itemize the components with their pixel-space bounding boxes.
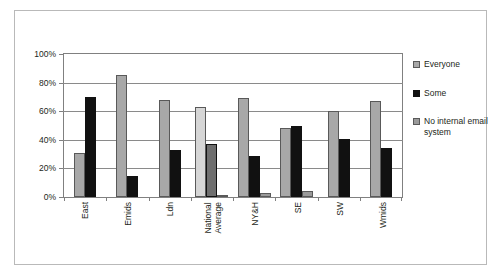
y-axis-tick-label: 40% (39, 135, 56, 145)
y-axis-tick-label: 60% (39, 106, 56, 116)
bar (217, 195, 228, 197)
bar-group (191, 54, 233, 197)
y-axis-tick (59, 140, 63, 141)
y-axis-tick (59, 83, 63, 84)
bar-group (149, 54, 191, 197)
x-axis-label: SE (293, 202, 303, 213)
x-axis-label-cell: East (64, 200, 107, 262)
y-axis-tick (59, 111, 63, 112)
legend-item[interactable]: Some (413, 88, 503, 99)
legend-item[interactable]: Everyone (413, 59, 503, 70)
bar (116, 75, 127, 197)
bar (339, 139, 350, 197)
legend-swatch-icon (413, 118, 420, 125)
x-axis-label: NationalAverage (203, 202, 223, 234)
x-axis-label-line2: Average (213, 202, 223, 234)
bar (280, 128, 291, 197)
x-axis-label-cell: NationalAverage (192, 200, 235, 262)
x-axis-label-cell: Wmids (362, 200, 405, 262)
bar-group (275, 54, 317, 197)
chart-frame: 100%80%60%40%20%0% EastEmidsLdnNationalA… (14, 10, 487, 265)
plot-wrapper: 100%80%60%40%20%0% (63, 53, 403, 198)
y-axis-tick-label: 0% (44, 192, 56, 202)
bar (195, 107, 206, 197)
bar (85, 97, 96, 197)
bar (74, 153, 85, 197)
y-axis-tick-label: 20% (39, 163, 56, 173)
bar-group (106, 54, 148, 197)
bar (260, 193, 271, 197)
bar-group (318, 54, 360, 197)
legend-label: Some (424, 88, 446, 99)
x-axis-label-cell: Emids (107, 200, 150, 262)
legend-item[interactable]: No internal email system (413, 116, 503, 137)
bar (249, 156, 260, 197)
bar (328, 111, 339, 197)
y-axis-tick (59, 168, 63, 169)
x-axis-label: East (80, 202, 90, 219)
y-axis-tick-label: 80% (39, 78, 56, 88)
x-axis-label: SW (335, 202, 345, 216)
x-axis-labels: EastEmidsLdnNationalAverageNY&HSESWWmids (64, 200, 404, 262)
x-axis-label: Emids (123, 202, 133, 226)
bar (381, 148, 392, 197)
bar-group (233, 54, 275, 197)
legend-label: No internal email system (424, 116, 503, 137)
x-axis-label-cell: SE (277, 200, 320, 262)
bar-group (360, 54, 402, 197)
legend-label: Everyone (424, 59, 460, 70)
legend-swatch-icon (413, 61, 420, 68)
bar (238, 98, 249, 197)
x-axis-label-cell: Ldn (149, 200, 192, 262)
chart-legend: EveryoneSomeNo internal email system (413, 59, 503, 155)
x-axis-label-cell: SW (319, 200, 362, 262)
bar-groups (64, 54, 402, 197)
x-axis-label: Wmids (378, 202, 388, 228)
bar (170, 150, 181, 197)
bar-group (64, 54, 106, 197)
bar (127, 176, 138, 197)
bar (370, 101, 381, 197)
y-axis-tick (59, 197, 63, 198)
y-axis-tick-label: 100% (34, 49, 56, 59)
bar (302, 191, 313, 197)
legend-swatch-icon (413, 90, 420, 97)
x-axis-label: NY&H (250, 202, 260, 226)
x-axis-label-cell: NY&H (234, 200, 277, 262)
y-axis-tick (59, 54, 63, 55)
bar (159, 100, 170, 197)
bar (291, 126, 302, 197)
x-axis-label: Ldn (165, 202, 175, 216)
bar (206, 144, 217, 197)
